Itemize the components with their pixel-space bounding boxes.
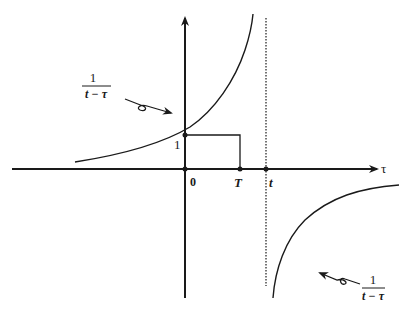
t-label: t bbox=[269, 175, 273, 190]
point-t bbox=[264, 167, 269, 172]
lower-annotation: 1 t − τ bbox=[362, 272, 385, 303]
function-diagram: τ 1 0 T t 1 t − τ 1 t − τ bbox=[0, 0, 409, 313]
point-T bbox=[238, 167, 243, 172]
lower-pointer-arrow bbox=[320, 273, 360, 284]
lower-fraction-denominator: t − τ bbox=[362, 289, 385, 303]
upper-annotation: 1 t − τ bbox=[82, 70, 111, 101]
upper-pointer-arrow bbox=[125, 99, 171, 113]
upper-fraction-numerator: 1 bbox=[90, 70, 97, 85]
unit-rectangle bbox=[185, 135, 240, 169]
hyperbola-right-branch bbox=[273, 185, 399, 298]
T-label: T bbox=[234, 175, 243, 190]
upper-fraction-denominator: t − τ bbox=[85, 87, 108, 101]
origin-point bbox=[183, 167, 188, 172]
lower-fraction-numerator: 1 bbox=[370, 272, 377, 287]
y-one-label: 1 bbox=[174, 137, 181, 152]
tau-axis-label: τ bbox=[381, 161, 386, 176]
point-y-one bbox=[183, 133, 188, 138]
origin-label: 0 bbox=[190, 175, 196, 189]
